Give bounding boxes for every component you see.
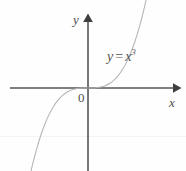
plot-canvas (0, 0, 186, 171)
x-axis-label: x (169, 96, 175, 109)
equation-operator: = (113, 49, 125, 64)
x-axis-arrowhead (173, 83, 182, 93)
curve-equation-label: y=x3 (107, 48, 136, 64)
cubic-function-figure: y x 0 y=x3 (0, 0, 186, 171)
origin-label: 0 (78, 91, 85, 104)
y-axis-arrowhead (83, 14, 93, 23)
equation-exponent: 3 (131, 47, 136, 57)
y-axis-label: y (73, 13, 79, 26)
cubic-curve-path (24, 0, 157, 171)
